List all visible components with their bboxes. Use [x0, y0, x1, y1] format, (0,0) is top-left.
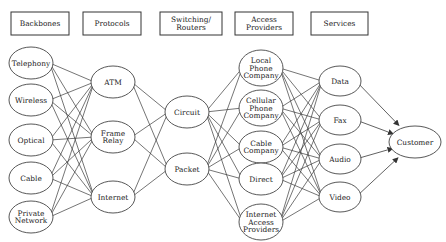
label-line: Company — [243, 146, 279, 155]
arrow-data-customer — [359, 84, 399, 125]
header-protocols: Protocols — [83, 12, 141, 35]
label-line: Audio — [328, 155, 351, 164]
header-backbones: Backbones — [11, 12, 69, 35]
edge-private-network-internet — [50, 197, 95, 217]
label-line: Providers — [246, 23, 282, 32]
node-atm: ATM — [91, 66, 135, 98]
label-line: Cable — [20, 174, 42, 183]
label-line: Network — [15, 216, 48, 225]
node-frame-relay: FrameRelay — [91, 121, 135, 153]
label-line: Packet — [174, 165, 199, 174]
edge-circuit-cellular-phone — [206, 108, 243, 112]
label-line: Company — [243, 71, 279, 80]
node-internet: Internet — [91, 181, 135, 213]
node-direct: Direct — [239, 163, 283, 195]
edge-optical-frame-relay — [50, 137, 95, 140]
edge-internet-access-fax — [280, 120, 322, 222]
node-telephony: Telephony — [9, 47, 53, 79]
node-internet-access: InternetAccessProviders — [239, 204, 283, 240]
arrow-audio-customer — [359, 148, 393, 158]
edge-cable-atm — [50, 82, 95, 178]
node-packet: Packet — [165, 153, 209, 185]
node-private-network: PrivateNetwork — [9, 201, 53, 233]
edge-frame-relay-packet — [132, 137, 169, 169]
node-wireless: Wireless — [9, 84, 53, 116]
label-line: Internet — [98, 193, 129, 202]
label-line: Circuit — [174, 108, 200, 117]
node-cellular-phone: CellularPhoneCompany — [239, 90, 283, 126]
edge-telephony-frame-relay — [50, 63, 95, 137]
edge-cable-company-video — [280, 147, 322, 197]
label-line: Backbones — [20, 19, 61, 28]
edge-local-phone-video — [280, 68, 322, 197]
edge-cable-company-audio — [280, 147, 322, 159]
edge-atm-circuit — [132, 82, 169, 112]
label-line: Providers — [243, 225, 279, 234]
label-line: Protocols — [94, 19, 129, 28]
node-local-phone: LocalPhoneCompany — [239, 50, 283, 86]
header-switching: Switching/Routers — [160, 12, 222, 35]
node-customer: Customer — [389, 126, 441, 158]
telecom-value-chain-diagram: BackbonesProtocolsSwitching/RoutersAcces… — [0, 0, 446, 242]
label-line: Relay — [103, 136, 125, 145]
edge-local-phone-data — [280, 68, 322, 81]
edge-cable-company-fax — [280, 120, 322, 147]
label-line: Telephony — [12, 59, 51, 68]
label-line: ATM — [103, 78, 122, 87]
header-access: AccessProviders — [235, 12, 293, 35]
label-line: Video — [328, 193, 351, 202]
label-line: Optical — [17, 136, 45, 145]
edge-internet-access-audio — [280, 159, 322, 222]
node-circuit: Circuit — [165, 96, 209, 128]
label-line: Services — [324, 19, 356, 28]
edge-circuit-internet-access — [206, 112, 243, 222]
label-line: Fax — [333, 116, 347, 125]
node-data: Data — [319, 66, 361, 96]
arrow-fax-customer — [359, 121, 393, 134]
edge-cable-internet — [50, 178, 95, 197]
label-line: Customer — [397, 138, 434, 147]
edge-packet-internet-access — [206, 169, 243, 222]
label-line: Company — [243, 111, 279, 120]
edge-direct-video — [280, 179, 322, 197]
column-headers: BackbonesProtocolsSwitching/RoutersAcces… — [11, 12, 368, 35]
edge-cellular-phone-data — [280, 81, 322, 108]
edge-packet-local-phone — [206, 68, 243, 169]
edge-cable-company-data — [280, 81, 322, 147]
node-cable-company: CableCompany — [239, 131, 283, 163]
edge-telephony-atm — [50, 63, 95, 82]
edge-cable-frame-relay — [50, 137, 95, 178]
label-line: Data — [331, 77, 349, 86]
node-optical: Optical — [9, 124, 53, 156]
header-services: Services — [311, 12, 368, 35]
label-line: Wireless — [15, 96, 47, 105]
edge-internet-packet — [132, 169, 169, 197]
edge-circuit-direct — [206, 112, 243, 179]
node-video: Video — [319, 182, 361, 212]
node-cable: Cable — [9, 162, 53, 194]
label-line: Routers — [176, 23, 206, 32]
edge-circuit-local-phone — [206, 68, 243, 112]
node-audio: Audio — [319, 144, 361, 174]
edge-packet-cable-company — [206, 147, 243, 169]
edge-local-phone-fax — [280, 68, 322, 120]
edge-direct-data — [280, 81, 322, 179]
node-fax: Fax — [319, 105, 361, 135]
arrow-video-customer — [359, 158, 398, 194]
label-line: Direct — [249, 175, 272, 184]
